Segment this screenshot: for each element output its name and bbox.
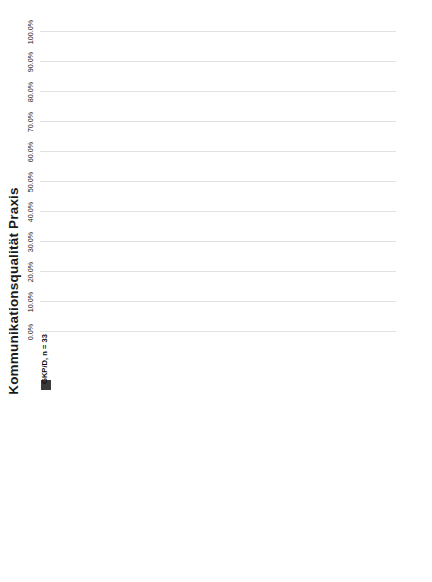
plot-area: GKP/D, n = 33 bbox=[40, 32, 396, 332]
chart-stage: Kommunikationsqualität Praxis 0.0%10.0%2… bbox=[0, 0, 432, 582]
x-tick-label: 60.0% bbox=[26, 142, 35, 162]
x-tick-label: 90.0% bbox=[26, 52, 35, 72]
chart-title: Kommunikationsqualität Praxis bbox=[6, 0, 21, 582]
group-name: GKP/D, n = 33 bbox=[40, 334, 49, 384]
x-tick-label: 20.0% bbox=[26, 262, 35, 282]
x-tick-label: 80.0% bbox=[26, 82, 35, 102]
x-axis-ticks: 0.0%10.0%20.0%30.0%40.0%50.0%60.0%70.0%8… bbox=[26, 32, 40, 332]
x-tick-label: 0.0% bbox=[26, 324, 35, 340]
x-tick-label: 100.0% bbox=[26, 20, 35, 44]
x-tick-label: 50.0% bbox=[26, 172, 35, 192]
x-tick-label: 10.0% bbox=[26, 292, 35, 312]
rotated-chart-canvas: Kommunikationsqualität Praxis 0.0%10.0%2… bbox=[0, 0, 432, 582]
x-tick-label: 30.0% bbox=[26, 232, 35, 252]
x-tick-label: 40.0% bbox=[26, 202, 35, 222]
x-tick-label: 70.0% bbox=[26, 112, 35, 132]
